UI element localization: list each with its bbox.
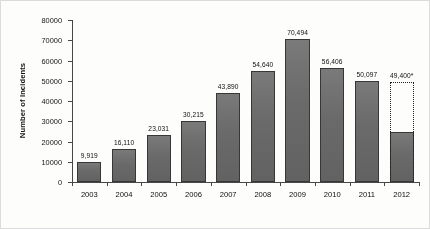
y-tick-mark: 20000 <box>68 142 72 143</box>
x-category-label: 2007 <box>220 190 237 199</box>
y-tick-label: 60000 <box>41 56 62 65</box>
x-tick-mark <box>246 182 247 186</box>
x-category-label: 2006 <box>185 190 202 199</box>
bar <box>181 121 205 182</box>
bar-value-label: 54,640 <box>252 61 273 68</box>
x-tick-mark <box>350 182 351 186</box>
x-category-label: 2009 <box>289 190 306 199</box>
bar <box>112 149 136 182</box>
y-tick-label: 10000 <box>41 157 62 166</box>
y-tick-label: 50000 <box>41 76 62 85</box>
x-category-label: 2010 <box>324 190 341 199</box>
bar-value-label: 70,494 <box>287 29 308 36</box>
y-tick-mark: 70000 <box>68 40 72 41</box>
bar-value-label: 50,097 <box>357 71 378 78</box>
bar-projection-outline <box>390 82 414 182</box>
y-tick-label: 30000 <box>41 117 62 126</box>
y-tick-label: 20000 <box>41 137 62 146</box>
x-tick-mark <box>419 182 420 186</box>
x-tick-mark <box>384 182 385 186</box>
bar-value-label: 56,406 <box>322 58 343 65</box>
bar-value-label: 23,031 <box>148 125 169 132</box>
y-tick-label: 0 <box>58 178 62 187</box>
x-tick-mark <box>315 182 316 186</box>
y-tick-mark: 50000 <box>68 81 72 82</box>
y-tick-label: 40000 <box>41 97 62 106</box>
bar <box>77 162 101 182</box>
x-category-label: 2008 <box>254 190 271 199</box>
x-category-label: 2003 <box>81 190 98 199</box>
x-tick-mark <box>280 182 281 186</box>
bar <box>320 68 344 182</box>
x-category-label: 2004 <box>116 190 133 199</box>
y-tick-mark: 30000 <box>68 121 72 122</box>
x-tick-mark <box>107 182 108 186</box>
x-tick-mark <box>211 182 212 186</box>
x-category-label: 2012 <box>393 190 410 199</box>
y-axis-line <box>72 20 73 183</box>
y-tick-label: 70000 <box>41 36 62 45</box>
bar <box>147 135 171 182</box>
y-tick-label: 80000 <box>41 16 62 25</box>
bar-chart: Number of Incidents 01000020000300004000… <box>0 0 430 229</box>
y-tick-mark: 60000 <box>68 61 72 62</box>
bar <box>251 71 275 182</box>
bar-value-label: 43,890 <box>218 83 239 90</box>
bar-value-label: 49,400* <box>390 72 413 79</box>
bar-value-label: 9,919 <box>81 152 98 159</box>
x-tick-mark <box>72 182 73 186</box>
bar <box>216 93 240 182</box>
x-category-label: 2011 <box>359 190 375 199</box>
y-tick-mark: 40000 <box>68 101 72 102</box>
y-tick-mark: 80000 <box>68 20 72 21</box>
y-tick-mark: 10000 <box>68 162 72 163</box>
x-tick-mark <box>176 182 177 186</box>
x-category-label: 2005 <box>150 190 167 199</box>
bar <box>355 81 379 182</box>
plot-area: 0100002000030000400005000060000700008000… <box>72 20 419 182</box>
bar <box>285 39 309 182</box>
y-axis-title: Number of Incidents <box>18 35 27 167</box>
bar-value-label: 16,110 <box>114 139 134 146</box>
bar-value-label: 30,215 <box>183 111 204 118</box>
x-tick-mark <box>141 182 142 186</box>
